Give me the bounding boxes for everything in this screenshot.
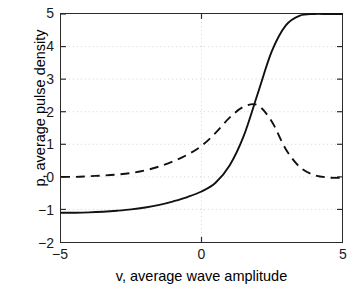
series-line-1 [61,14,342,213]
x-axis-label: v, average wave amplitude [60,268,343,284]
x-tick-label: 5 [339,247,347,261]
x-axis-tick-labels: −505 [60,247,343,267]
y-axis-label: p, average pulse density [32,0,48,228]
x-tick-label: −5 [52,247,68,261]
x-tick-label: 0 [198,247,206,261]
data-curves [61,14,342,242]
chart-figure: −2−1012345 −505 p, average pulse density… [0,0,359,295]
series-line-2 [61,104,342,178]
plot-area [60,13,343,243]
